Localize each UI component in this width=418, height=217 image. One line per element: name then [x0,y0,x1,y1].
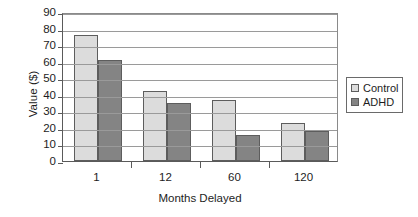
legend-label-adhd: ADHD [363,97,394,108]
y-tick-label: 40 [24,90,56,102]
x-tick-label-120: 120 [274,171,334,183]
x-axis-separator [269,162,270,168]
gridline [63,97,337,98]
bar-control-1 [74,35,98,161]
y-tick-label: 70 [24,40,56,52]
gridline [63,80,337,81]
legend-swatch-adhd-icon [351,98,359,106]
gridline [63,47,337,48]
gridline [63,14,337,15]
bar-chart: Value ($) 0102030405060708090 11260120 M… [0,0,418,217]
legend-item-adhd: ADHD [351,95,398,109]
y-tick-mark [58,163,63,164]
legend-item-control: Control [351,81,398,95]
x-tick-label-1: 1 [67,171,127,183]
gridline [63,64,337,65]
bar-adhd-60 [236,135,260,161]
legend-swatch-control-icon [351,84,359,92]
x-axis-separator [131,162,132,168]
y-tick-label: 80 [24,24,56,36]
y-tick-mark [58,113,63,114]
legend-label-control: Control [363,83,398,94]
x-axis-title: Months Delayed [62,192,338,204]
y-tick-mark [58,31,63,32]
bars-layer [63,14,337,161]
y-tick-label: 0 [24,156,56,168]
y-tick-mark [58,146,63,147]
x-tick-label-12: 12 [136,171,196,183]
bar-adhd-12 [167,103,191,161]
y-tick-label: 20 [24,123,56,135]
plot-area [62,13,338,162]
bar-control-120 [281,123,305,161]
gridline [63,31,337,32]
x-tick-label-60: 60 [205,171,265,183]
bar-control-12 [143,91,167,161]
y-tick-mark [58,97,63,98]
x-axis-separator [200,162,201,168]
chart-legend: Control ADHD [346,77,403,113]
y-tick-label: 30 [24,106,56,118]
y-tick-label: 10 [24,139,56,151]
y-tick-label: 90 [24,7,56,19]
y-axis-tick-labels: 0102030405060708090 [24,0,56,217]
y-tick-mark [58,130,63,131]
y-tick-label: 50 [24,73,56,85]
y-tick-label: 60 [24,57,56,69]
y-tick-mark [58,80,63,81]
y-tick-mark [58,64,63,65]
gridline [63,130,337,131]
y-tick-mark [58,47,63,48]
gridline [63,113,337,114]
y-tick-mark [58,14,63,15]
gridline [63,146,337,147]
